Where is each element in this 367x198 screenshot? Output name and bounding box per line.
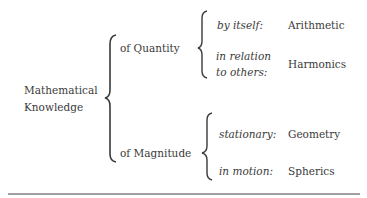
condition-stationary: stationary: xyxy=(219,128,276,141)
branch-quantity: of Quantity xyxy=(120,42,180,55)
condition-in-motion: in motion: xyxy=(219,165,273,178)
subject-spherics: Spherics xyxy=(288,165,335,178)
magnitude-brace-icon xyxy=(202,113,212,180)
condition-in-relation-line2: to others: xyxy=(216,66,267,79)
condition-in-relation-line1: in relation xyxy=(216,50,271,63)
root-label-line2: Knowledge xyxy=(24,101,83,114)
quantity-brace-icon xyxy=(198,11,207,78)
subject-harmonics: Harmonics xyxy=(288,58,346,71)
root-label-line1: Mathematical xyxy=(24,84,98,97)
subject-arithmetic: Arithmetic xyxy=(288,19,345,32)
branch-magnitude: of Magnitude xyxy=(120,147,191,160)
subject-geometry: Geometry xyxy=(288,128,340,141)
big-brace-icon xyxy=(105,35,116,162)
condition-by-itself: by itself: xyxy=(217,19,263,32)
